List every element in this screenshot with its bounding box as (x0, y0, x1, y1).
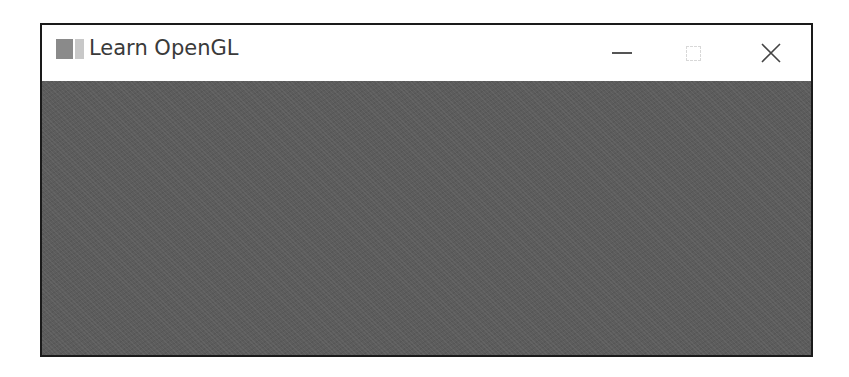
maximize-button[interactable] (658, 25, 728, 81)
app-window: Learn OpenGL (40, 23, 813, 357)
title-bar[interactable]: Learn OpenGL (42, 25, 811, 81)
window-title: Learn OpenGL (89, 36, 238, 60)
close-icon (760, 42, 782, 64)
minimize-icon (612, 52, 632, 54)
maximize-icon (686, 46, 701, 61)
opengl-viewport[interactable] (42, 81, 811, 355)
close-button[interactable] (736, 25, 806, 81)
app-icon[interactable] (56, 39, 84, 59)
minimize-button[interactable] (587, 25, 657, 81)
